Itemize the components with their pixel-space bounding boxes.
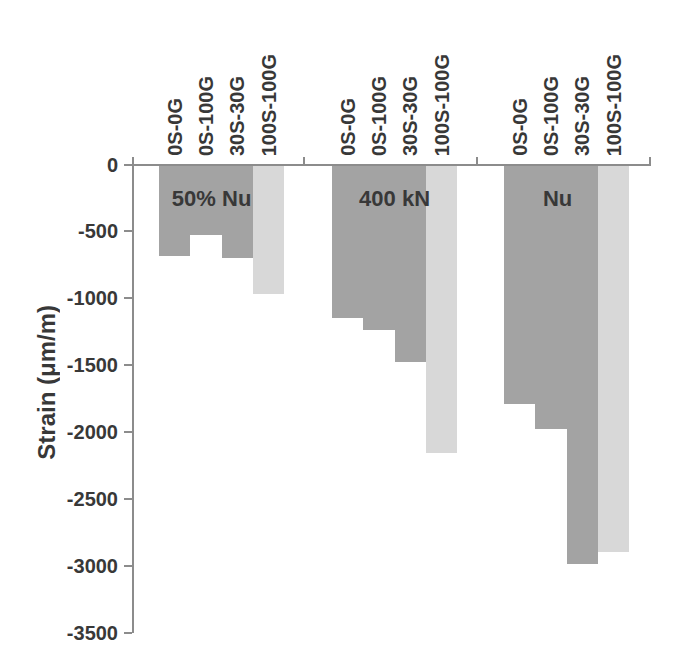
y-tick-label-4: -2000 xyxy=(38,422,118,442)
column-label-30s-30g-group2: 30S-30G xyxy=(399,76,421,156)
x-boundary-tick-3 xyxy=(649,157,651,165)
column-label-0s-0g-group3: 0S-0G xyxy=(509,98,531,156)
bar-100s-100g-group2 xyxy=(426,164,457,453)
strain-bar-chart: Strain (μm/m) 50% Nu0S-0G0S-100G30S-30G1… xyxy=(0,0,674,672)
column-label-0s-0g-group2: 0S-0G xyxy=(337,98,359,156)
group-label-1: 50% Nu xyxy=(172,186,251,212)
column-label-100s-100g-group3: 100S-100G xyxy=(603,54,625,156)
y-tick-label-3: -1500 xyxy=(38,355,118,375)
column-label-0s-100g-group3: 0S-100G xyxy=(540,76,562,156)
column-label-100s-100g-group2: 100S-100G xyxy=(431,54,453,156)
y-tick-label-0: 0 xyxy=(38,155,118,175)
x-boundary-tick-1 xyxy=(303,157,305,165)
y-tick-label-2: -1000 xyxy=(38,288,118,308)
column-label-30s-30g-group1: 30S-30G xyxy=(226,76,248,156)
column-label-30s-30g-group3: 30S-30G xyxy=(571,76,593,156)
y-tick-label-7: -3500 xyxy=(38,623,118,643)
column-label-0s-100g-group1: 0S-100G xyxy=(195,76,217,156)
column-label-100s-100g-group1: 100S-100G xyxy=(258,54,280,156)
column-label-0s-100g-group2: 0S-100G xyxy=(368,76,390,156)
column-label-0s-0g-group1: 0S-0G xyxy=(164,98,186,156)
bar-30s-30g-group3 xyxy=(567,164,598,564)
y-axis-line xyxy=(132,157,134,633)
bar-100s-100g-group1 xyxy=(253,164,284,294)
x-axis-line xyxy=(132,164,652,166)
bar-100s-100g-group3 xyxy=(598,164,629,552)
group-label-3: Nu xyxy=(543,186,572,212)
y-tick-label-6: -3000 xyxy=(38,556,118,576)
x-boundary-tick-2 xyxy=(476,157,478,165)
y-tick-label-5: -2500 xyxy=(38,489,118,509)
bar-0s-0g-group3 xyxy=(504,164,535,404)
group-label-2: 400 kN xyxy=(359,186,430,212)
y-tick-label-1: -500 xyxy=(38,221,118,241)
